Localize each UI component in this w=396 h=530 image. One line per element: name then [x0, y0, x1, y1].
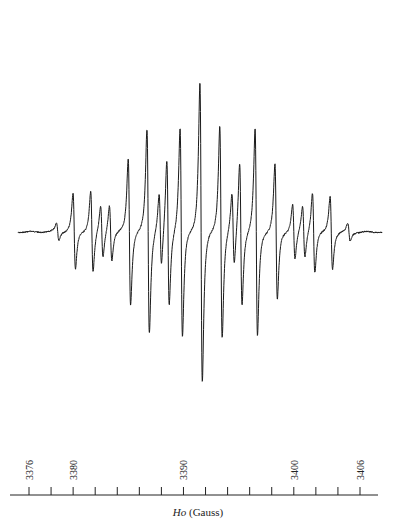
x-tick-label: 3406	[355, 460, 366, 480]
x-tick-label: 3390	[178, 460, 189, 480]
x-axis-label-unit: (Gauss)	[189, 506, 223, 518]
x-axis-label-symbol: Ho	[173, 506, 186, 518]
spectrum-trace	[18, 83, 382, 381]
x-tick-label: 3376	[24, 460, 35, 480]
x-axis-label: Ho (Gauss)	[0, 506, 396, 518]
x-axis-tick-labels: 33763380339034003406	[24, 460, 366, 480]
x-tick-label: 3400	[289, 460, 300, 480]
epr-spectrum-chart: 33763380339034003406	[0, 0, 396, 530]
x-axis-ticks	[29, 487, 360, 495]
x-tick-label: 3380	[68, 460, 79, 480]
